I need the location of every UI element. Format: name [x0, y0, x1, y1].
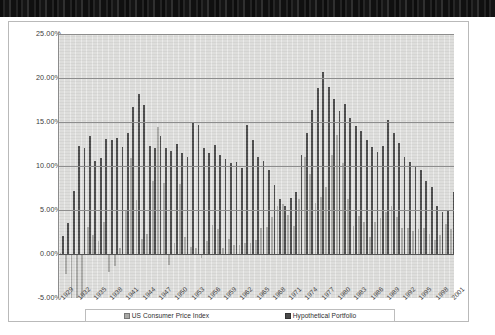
bar-portfolio: [122, 147, 124, 254]
bar-portfolio: [387, 120, 389, 254]
bar-cpi: [65, 254, 67, 274]
bar-portfolio: [290, 198, 292, 254]
horizontal-gridline: [59, 78, 454, 79]
bar-portfolio: [366, 140, 368, 254]
bar-portfolio: [360, 131, 362, 254]
bar-portfolio: [252, 140, 254, 254]
bar-portfolio: [257, 157, 259, 254]
bar-portfolio: [349, 118, 351, 254]
bar-portfolio: [382, 146, 384, 254]
bar-portfolio: [111, 140, 113, 254]
horizontal-gridline: [59, 122, 454, 123]
bar-portfolio: [442, 212, 444, 254]
legend-item: Hypothetical Portfolio: [285, 312, 356, 319]
bar-cpi: [108, 254, 110, 272]
bar-cpi: [114, 254, 116, 266]
y-axis-tick-label: 15.00%: [17, 118, 61, 126]
y-axis-tick-label: -5.00%: [17, 294, 61, 302]
chart-legend: US Consumer Price IndexHypothetical Port…: [85, 309, 395, 322]
bar-portfolio: [409, 162, 411, 254]
legend-swatch-icon: [285, 313, 291, 319]
bar-portfolio: [219, 155, 221, 254]
bar-portfolio: [246, 125, 248, 254]
bar-portfolio: [225, 159, 227, 254]
horizontal-gridline: [59, 166, 454, 167]
bar-portfolio: [371, 147, 373, 254]
bar-portfolio: [143, 105, 145, 254]
bar-portfolio: [89, 136, 91, 254]
bar-portfolio: [355, 126, 357, 254]
bar-portfolio: [295, 192, 297, 254]
bar-portfolio: [311, 110, 313, 254]
bar-portfolio: [431, 187, 433, 254]
bar-portfolio: [328, 87, 330, 254]
legend-item: US Consumer Price Index: [124, 312, 209, 319]
bar-portfolio: [279, 199, 281, 254]
legend-label: US Consumer Price Index: [132, 312, 209, 319]
zero-baseline: [59, 254, 454, 255]
bar-portfolio: [192, 122, 194, 254]
bar-cpi: [76, 254, 78, 298]
bar-portfolio: [116, 138, 118, 254]
horizontal-gridline: [59, 34, 454, 35]
bar-portfolio: [132, 107, 134, 254]
bar-portfolio: [377, 152, 379, 254]
horizontal-gridline: [59, 210, 454, 211]
bar-portfolio: [181, 153, 183, 254]
bar-portfolio: [344, 104, 346, 254]
bar-portfolio: [78, 146, 80, 254]
bar-portfolio: [306, 133, 308, 254]
bar-portfolio: [138, 94, 140, 254]
bar-portfolio: [203, 148, 205, 254]
bar-portfolio: [94, 161, 96, 254]
bar-portfolio: [393, 133, 395, 254]
y-axis-tick-label: 20.00%: [17, 74, 61, 82]
bar-portfolio: [160, 136, 162, 254]
y-axis-tick-label: 0.00%: [17, 250, 61, 258]
legend-label: Hypothetical Portfolio: [293, 312, 356, 319]
bar-portfolio: [84, 148, 86, 254]
y-axis-tick-label: 10.00%: [17, 162, 61, 170]
bar-portfolio: [301, 155, 303, 254]
bar-portfolio: [236, 162, 238, 254]
bar-portfolio: [149, 146, 151, 254]
bar-portfolio: [62, 236, 64, 254]
bar-portfolio: [274, 185, 276, 254]
legend-swatch-icon: [124, 313, 130, 319]
bar-portfolio: [67, 223, 69, 254]
bar-portfolio: [214, 145, 216, 254]
bar-portfolio: [100, 158, 102, 254]
bar-portfolio: [447, 210, 449, 254]
chart-canvas: 25.00%20.00%15.00%10.00%5.00%0.00%-5.00%…: [9, 22, 470, 323]
y-axis: 25.00%20.00%15.00%10.00%5.00%0.00%-5.00%: [13, 22, 61, 323]
bar-portfolio: [154, 148, 156, 254]
bar-cpi: [168, 254, 170, 265]
bar-portfolio: [263, 161, 265, 254]
bar-portfolio: [420, 170, 422, 254]
scan-artifact-bar: [0, 0, 495, 17]
bar-portfolio: [105, 139, 107, 254]
bar-portfolio: [198, 125, 200, 254]
bar-portfolio: [165, 148, 167, 254]
bar-portfolio: [73, 191, 75, 254]
bar-portfolio: [404, 157, 406, 254]
bar-portfolio: [322, 72, 324, 254]
bar-portfolio: [425, 181, 427, 254]
bar-portfolio: [284, 206, 286, 254]
bar-portfolio: [268, 170, 270, 254]
bar-portfolio: [436, 206, 438, 254]
chart-frame: 25.00%20.00%15.00%10.00%5.00%0.00%-5.00%…: [8, 21, 469, 322]
bar-portfolio: [187, 157, 189, 254]
bar-portfolio: [176, 144, 178, 254]
plot-area: [58, 34, 454, 298]
bar-portfolio: [230, 163, 232, 254]
bar-portfolio: [339, 111, 341, 254]
bar-portfolio: [317, 88, 319, 254]
y-axis-tick-label: 5.00%: [17, 206, 61, 214]
bar-portfolio: [208, 153, 210, 254]
y-axis-tick-label: 25.00%: [17, 30, 61, 38]
bar-portfolio: [453, 192, 454, 254]
bar-portfolio: [398, 143, 400, 254]
document-page: 25.00%20.00%15.00%10.00%5.00%0.00%-5.00%…: [0, 17, 495, 335]
bar-portfolio: [127, 133, 129, 254]
